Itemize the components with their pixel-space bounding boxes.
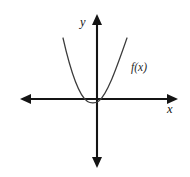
x-axis — [20, 94, 178, 104]
y-axis-bottom-arrow-icon — [92, 157, 102, 168]
x-axis-left-arrow-icon — [20, 94, 31, 104]
y-axis-top-arrow-icon — [92, 14, 102, 25]
curve-function-label: f(x) — [131, 61, 147, 74]
y-axis-label: y — [78, 15, 86, 29]
parabola-curve — [63, 38, 127, 103]
y-axis — [92, 14, 102, 168]
x-axis-label: x — [166, 102, 173, 116]
parabola-figure: y x f(x) — [0, 0, 190, 177]
graph-canvas: y x f(x) — [0, 0, 190, 177]
